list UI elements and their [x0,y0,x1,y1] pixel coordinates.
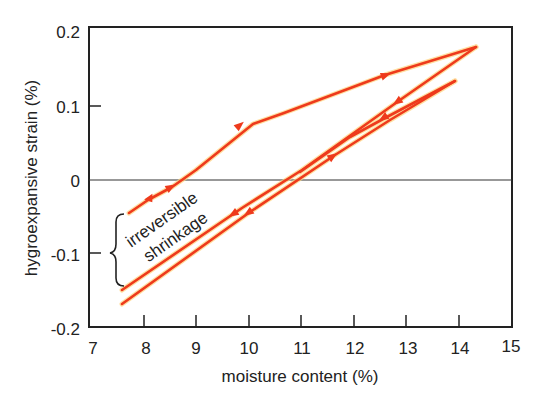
x-tick-labels: 7 8 9 10 11 12 13 14 15 [88,337,520,358]
x-tick-label: 10 [240,339,259,358]
series-drying [122,47,476,290]
x-tick-label: 9 [191,339,200,358]
y-tick-label: 0.1 [56,98,80,117]
y-axis-title: hygroexpansive strain (%) [22,80,41,277]
y-tick-labels: 0.2 0.1 0 -0.1 -0.2 [51,23,80,339]
x-ticks [144,315,459,327]
x-tick-label: 14 [451,339,470,358]
series-lines [122,47,476,304]
x-tick-label: 15 [502,337,521,356]
y-tick-label: 0 [71,172,80,191]
y-tick-label: -0.1 [51,246,80,265]
series-first-wetting [129,47,476,213]
brace-icon [110,214,124,286]
y-tick-label: 0.2 [56,23,80,42]
x-tick-label: 8 [141,339,150,358]
x-tick-label: 12 [346,339,365,358]
x-tick-label: 13 [399,339,418,358]
x-axis-title: moisture content (%) [222,367,379,386]
y-tick-label: -0.2 [51,320,80,339]
x-tick-label: 11 [293,339,311,358]
chart-canvas: 0.2 0.1 0 -0.1 -0.2 7 8 9 10 11 12 13 14… [0,0,541,404]
x-tick-label: 7 [88,339,97,358]
